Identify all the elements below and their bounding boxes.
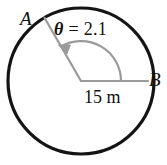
point-b-label: B: [149, 70, 161, 89]
angle-label: θ = 2.1: [54, 20, 107, 38]
point-a-label: A: [20, 9, 32, 28]
angle-equals-sign: =: [64, 19, 84, 39]
radius-length-label: 15 m: [84, 88, 121, 106]
angle-value: 2.1: [84, 19, 107, 39]
circle-angle-figure: A B θ = 2.1 15 m: [0, 0, 167, 165]
theta-symbol: θ: [54, 19, 64, 39]
